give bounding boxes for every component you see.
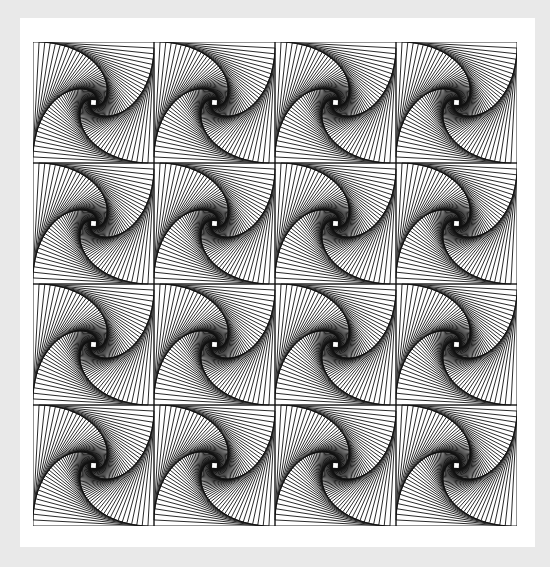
spiral-cell	[396, 42, 517, 163]
spiral-cell	[33, 163, 154, 284]
spiral-squares-artwork	[33, 42, 517, 526]
spiral-cell	[275, 163, 396, 284]
spiral-cell	[275, 42, 396, 163]
spiral-cell	[396, 284, 517, 405]
spiral-cell	[154, 42, 275, 163]
spiral-cell	[33, 42, 154, 163]
spiral-cell	[396, 405, 517, 526]
spiral-squares-canvas	[33, 42, 517, 526]
spiral-cell	[275, 405, 396, 526]
spiral-cell	[154, 163, 275, 284]
spiral-cell	[154, 405, 275, 526]
spiral-cell	[396, 163, 517, 284]
spiral-cell	[33, 405, 154, 526]
spiral-cell	[154, 284, 275, 405]
spiral-cell	[275, 284, 396, 405]
spiral-cell	[33, 284, 154, 405]
